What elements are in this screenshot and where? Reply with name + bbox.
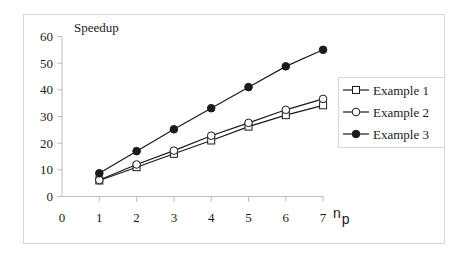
data-point bbox=[96, 169, 104, 177]
legend: Example 1Example 2Example 3 bbox=[339, 78, 445, 148]
data-point bbox=[170, 125, 178, 133]
x-axis-label-main: n bbox=[333, 205, 341, 221]
x-tick-label: 5 bbox=[245, 210, 252, 225]
x-tick-label: 4 bbox=[208, 210, 215, 225]
legend-label: Example 3 bbox=[373, 127, 429, 142]
y-tick-label: 30 bbox=[40, 109, 53, 124]
legend-label: Example 1 bbox=[373, 83, 429, 98]
legend-marker-icon bbox=[352, 130, 360, 138]
data-point bbox=[319, 95, 327, 103]
data-point bbox=[245, 83, 253, 91]
x-tick-label: 3 bbox=[171, 210, 178, 225]
legend-marker-icon bbox=[352, 108, 360, 116]
data-point bbox=[170, 147, 178, 155]
y-tick-label: 10 bbox=[40, 162, 53, 177]
x-tick-label: 2 bbox=[133, 210, 140, 225]
y-tick-label: 40 bbox=[40, 82, 53, 97]
data-point bbox=[282, 106, 290, 114]
legend-marker-icon bbox=[353, 87, 360, 94]
speedup-chart: 010203040506001234567 Speedup np Example… bbox=[0, 0, 468, 259]
data-point bbox=[207, 132, 215, 140]
data-point bbox=[133, 161, 141, 169]
y-tick-label: 0 bbox=[47, 189, 54, 204]
y-tick-label: 50 bbox=[40, 56, 53, 71]
x-axis-label-sub: p bbox=[342, 211, 350, 227]
x-tick-label: 6 bbox=[283, 210, 290, 225]
legend-label: Example 2 bbox=[373, 105, 429, 120]
data-point bbox=[319, 46, 327, 54]
data-point bbox=[282, 63, 290, 71]
x-tick-label: 0 bbox=[59, 210, 66, 225]
y-tick-label: 60 bbox=[40, 29, 53, 44]
x-tick-label: 7 bbox=[320, 210, 327, 225]
data-point bbox=[207, 104, 215, 112]
y-tick-label: 20 bbox=[40, 136, 53, 151]
data-point bbox=[245, 119, 253, 127]
data-point bbox=[133, 147, 141, 155]
chart-title: Speedup bbox=[74, 20, 119, 35]
x-tick-label: 1 bbox=[96, 210, 103, 225]
